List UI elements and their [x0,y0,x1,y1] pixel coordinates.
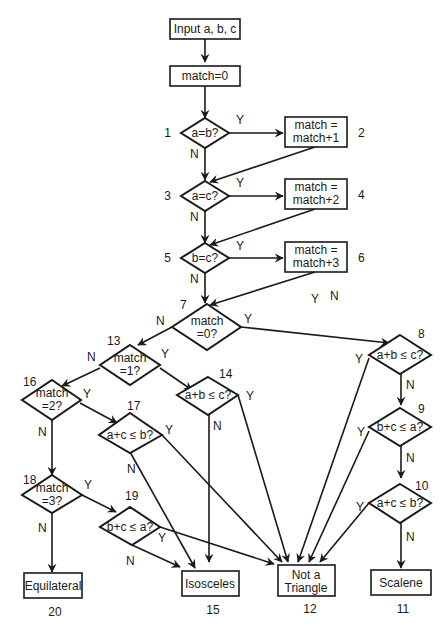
node-d3-decision: a=c? 3 Y N [164,176,244,224]
svg-text:Y: Y [236,239,244,253]
node-input: Input a, b, c [170,19,240,39]
svg-text:13: 13 [107,334,121,348]
svg-text:=0?: =0? [197,327,218,341]
svg-text:10: 10 [415,479,429,493]
svg-text:match =: match = [294,180,337,194]
node-d13-decision: match =1? 13 Y N [87,334,169,385]
edge-d19-t12 [160,527,274,564]
svg-text:14: 14 [219,367,233,381]
edge-d17-t15 [130,452,195,568]
svg-text:Y: Y [355,352,363,366]
svg-text:=3?: =3? [42,494,63,508]
svg-text:4: 4 [358,188,365,202]
svg-text:N: N [127,462,136,476]
node-d1-decision: a=b? 1 Y N [164,113,244,161]
edge-d18-d19 [82,495,116,512]
node-init: match=0 [170,66,240,86]
svg-text:Isosceles: Isosceles [185,577,235,591]
edge-p4-d5 [210,209,315,245]
svg-text:3: 3 [164,189,171,203]
svg-text:6: 6 [358,251,365,265]
svg-text:match =: match = [294,118,337,132]
node-d8-decision: a+b ≤ c? 8 Y N [355,327,431,392]
node-t11-scalene: Scalene 11 [371,570,431,616]
node-t12-not-a-triangle: Not a Triangle 12 [278,565,335,616]
svg-text:11: 11 [397,602,410,616]
svg-text:15: 15 [206,603,220,617]
edge-d14-t12 [238,395,288,562]
node-t20-equilateral: Equilateral 20 [24,573,82,619]
svg-text:20: 20 [48,605,62,619]
svg-text:1: 1 [164,126,171,140]
svg-text:a=c?: a=c? [192,189,219,203]
svg-text:b+c ≤ a?: b+c ≤ a? [107,520,154,534]
svg-text:match+3: match+3 [293,256,340,270]
svg-text:Not a: Not a [292,568,321,582]
svg-text:N: N [406,451,415,465]
svg-text:=2?: =2? [42,399,63,413]
svg-text:Y: Y [161,347,169,361]
node-d10-decision: a+c ≤ b? 10 Y N [356,479,431,544]
svg-text:Equilateral: Equilateral [25,579,82,593]
svg-text:Y: Y [246,389,254,403]
edge-d19-t15 [132,545,180,567]
svg-text:N: N [190,272,199,286]
svg-text:9: 9 [418,402,425,416]
svg-text:N: N [38,521,47,535]
svg-text:N: N [406,530,415,544]
svg-text:Y: Y [236,113,244,127]
node-p6-process: match = match+3 6 [285,242,365,272]
node-d14-decision: a+b ≤ c? 14 Y N [177,367,254,433]
stray-y-label: Y [311,292,319,306]
svg-text:match: match [36,481,69,495]
edges [52,39,401,572]
svg-text:N: N [190,147,199,161]
node-t15-isosceles: Isosceles 15 [182,571,239,617]
svg-text:8: 8 [418,327,425,341]
svg-text:a+c ≤ b?: a+c ≤ b? [377,496,424,510]
svg-text:Y: Y [236,176,244,190]
svg-text:N: N [406,378,415,392]
edge-d7-d13 [138,327,172,345]
svg-text:a+b ≤ c?: a+b ≤ c? [377,348,424,362]
node-d17-decision: a+c ≤ b? 17 Y N [99,399,173,476]
flowchart-canvas: Input a, b, c match=0 a=b? 1 Y N match =… [0,0,448,639]
edge-d13-d14 [160,368,192,390]
svg-text:Y: Y [84,478,92,492]
svg-text:match: match [114,351,147,365]
svg-text:Y: Y [83,387,91,401]
svg-text:match+1: match+1 [293,131,340,145]
svg-text:match =: match = [294,243,337,257]
svg-text:a+b ≤ c?: a+b ≤ c? [185,388,232,402]
svg-text:N: N [213,419,222,433]
svg-text:match+2: match+2 [293,193,340,207]
svg-text:N: N [156,314,165,328]
svg-text:=1?: =1? [120,364,141,378]
svg-text:19: 19 [125,489,139,503]
edge-p6-d7 [210,272,315,305]
edge-d16-d17 [80,403,117,423]
svg-text:N: N [190,210,199,224]
edge-p2-d3 [210,147,315,182]
node-d18-decision: match =3? 18 Y N [22,473,92,535]
svg-text:Y: Y [244,312,252,326]
svg-text:match: match [36,386,69,400]
svg-text:match=0: match=0 [182,69,229,83]
node-d7-decision: match =0? 7 Y N [156,298,252,350]
svg-text:12: 12 [303,602,317,616]
svg-text:2: 2 [358,126,365,140]
svg-text:match: match [191,314,224,328]
svg-text:Input a, b, c: Input a, b, c [174,22,237,36]
svg-text:a=b?: a=b? [191,126,218,140]
node-p4-process: match = match+2 4 [285,179,365,209]
edge-d17-t12 [162,435,282,562]
svg-text:16: 16 [23,375,37,389]
node-d16-decision: match =2? 16 Y N [22,375,91,439]
edge-d7-d8 [241,327,389,343]
svg-text:Y: Y [165,423,173,437]
node-d5-decision: b=c? 5 Y N [164,239,244,286]
stray-n-label: N [330,289,339,303]
svg-text:N: N [87,350,96,364]
edge-d8-t12 [298,358,369,562]
svg-text:N: N [126,554,135,568]
